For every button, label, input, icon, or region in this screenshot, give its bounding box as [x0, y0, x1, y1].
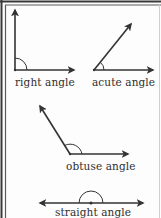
obtuse-angle-label: obtuse angle — [66, 161, 135, 172]
straight-angle-figure — [40, 191, 143, 205]
diagram-frame: right angle acute angle obtuse angle str… — [0, 0, 161, 218]
frame-border — [0, 0, 161, 218]
right-angle-figure — [14, 10, 74, 71]
right-angle-label: right angle — [15, 77, 75, 88]
acute-angle-figure — [93, 24, 153, 71]
angles-diagram — [0, 0, 161, 218]
straight-angle-label: straight angle — [55, 207, 131, 218]
obtuse-angle-figure — [40, 106, 128, 155]
acute-angle-label: acute angle — [92, 77, 155, 88]
